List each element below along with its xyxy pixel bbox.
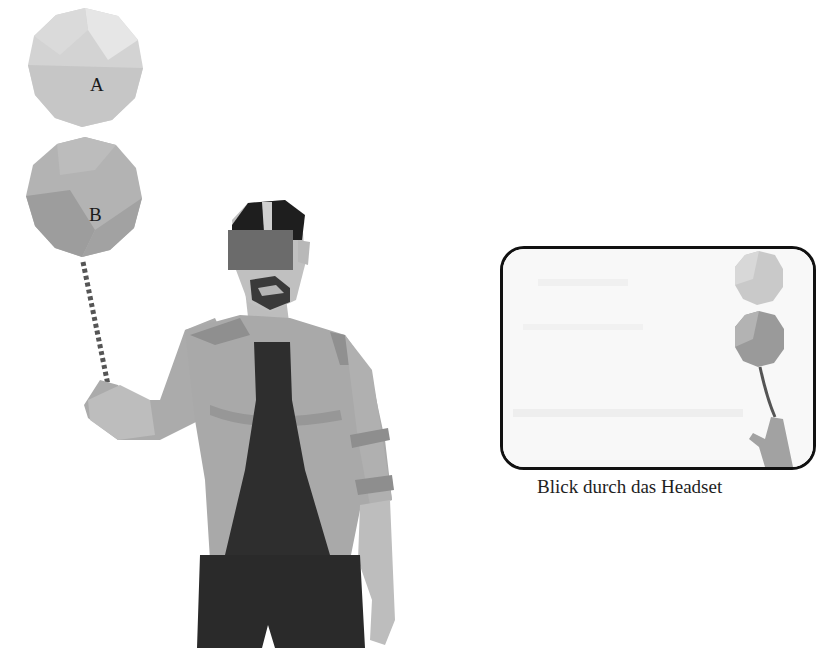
view-balloon-a (735, 251, 783, 305)
balloon-label-b: B (89, 204, 102, 226)
balloon-a (28, 8, 143, 127)
view-balloon-b (735, 311, 784, 367)
balloon-b (26, 137, 142, 257)
headset-view-panel (500, 246, 816, 470)
headset-view-caption: Blick durch das Headset (537, 476, 722, 498)
balloon-label-a: A (90, 74, 104, 96)
pants (197, 555, 365, 648)
vr-headset (228, 230, 293, 270)
balloon-stick (83, 262, 108, 385)
headset-view-scene (503, 249, 813, 467)
